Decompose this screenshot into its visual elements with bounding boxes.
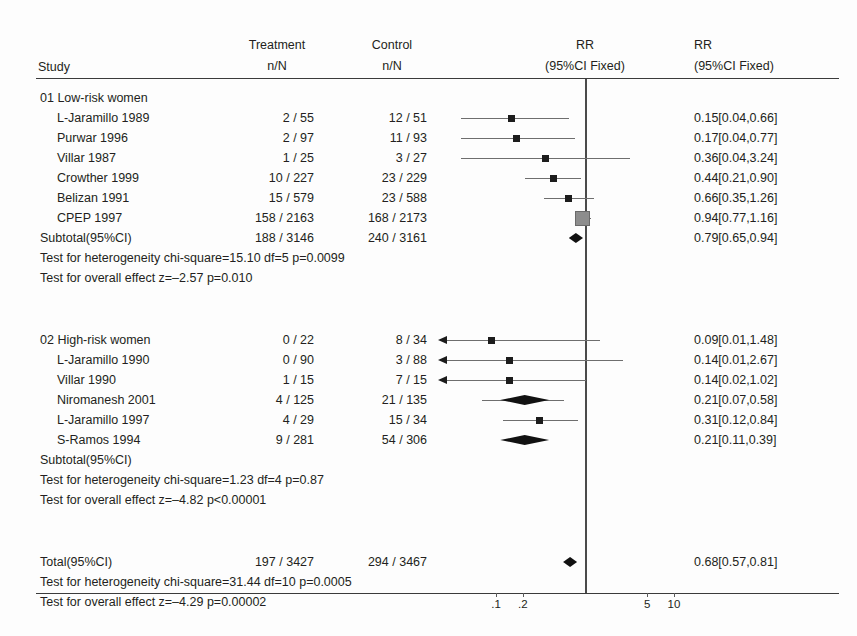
axis-tick-mark bbox=[647, 593, 648, 597]
axis-tick-label: .1 bbox=[491, 598, 501, 610]
effect-marker bbox=[550, 175, 557, 182]
graph-area bbox=[444, 79, 682, 593]
study-label: S-Ramos 1994 bbox=[57, 430, 140, 450]
table-row: Test for overall effect z=–4.82 p<0.0000… bbox=[0, 490, 857, 510]
study-control: 54 / 306 bbox=[335, 430, 427, 450]
column-header-rr-plot: RR bbox=[495, 38, 675, 53]
study-treatment: 158 / 2163 bbox=[222, 208, 314, 228]
total-control: 294 / 3467 bbox=[335, 552, 427, 572]
effect-marker bbox=[536, 417, 543, 424]
subtotal-rr: 0.79[0.65,0.94] bbox=[694, 228, 777, 248]
study-treatment: 4 / 29 bbox=[222, 410, 314, 430]
group-title-control: 8 / 34 bbox=[335, 330, 427, 350]
x-axis: .1.2510 bbox=[444, 593, 682, 623]
table-row: Test for heterogeneity chi-square=1.23 d… bbox=[0, 470, 857, 490]
ci-arrow-left-icon bbox=[438, 376, 447, 384]
total-overall-effect-test: Test for overall effect z=–4.29 p=0.0000… bbox=[40, 592, 266, 612]
ci-arrow-left-icon bbox=[438, 336, 447, 344]
study-treatment: 4 / 125 bbox=[222, 390, 314, 410]
subtotal-label: Subtotal(95%CI) bbox=[40, 450, 132, 470]
header-divider-rule bbox=[36, 78, 839, 79]
effect-marker bbox=[506, 357, 513, 364]
study-treatment: 15 / 579 bbox=[222, 188, 314, 208]
effect-marker bbox=[565, 195, 572, 202]
study-treatment: 0 / 90 bbox=[222, 350, 314, 370]
study-label: L-Jaramillo 1990 bbox=[57, 350, 149, 370]
total-treatment: 197 / 3427 bbox=[222, 552, 314, 572]
study-control: 11 / 93 bbox=[335, 128, 427, 148]
table-row: Test for overall effect z=–4.29 p=0.0000… bbox=[0, 592, 857, 612]
group-title-treatment: 0 / 22 bbox=[222, 330, 314, 350]
study-rr: 0.21[0.11,0.39] bbox=[694, 430, 776, 450]
table-row: Villar 19871 / 253 / 270.36[0.04,3.24] bbox=[0, 148, 857, 168]
axis-tick-label: .2 bbox=[518, 598, 528, 610]
table-row: Test for heterogeneity chi-square=31.44 … bbox=[0, 572, 857, 592]
study-control: 3 / 88 bbox=[335, 350, 427, 370]
study-label: Villar 1987 bbox=[57, 148, 116, 168]
study-rr: 0.66[0.35,1.26] bbox=[694, 188, 777, 208]
study-label: Niromanesh 2001 bbox=[57, 390, 156, 410]
study-treatment: 2 / 97 bbox=[222, 128, 314, 148]
study-control: 7 / 15 bbox=[335, 370, 427, 390]
forest-plot: Study Treatment n/N Control n/N RR (95%C… bbox=[0, 0, 857, 636]
group-title: 02 High-risk women bbox=[40, 330, 150, 350]
axis-tick-mark bbox=[523, 593, 524, 597]
table-row: L-Jaramillo 19974 / 2915 / 340.31[0.12,0… bbox=[0, 410, 857, 430]
column-header-study: Study bbox=[38, 60, 70, 75]
total-label: Total(95%CI) bbox=[40, 552, 112, 572]
subtotal-diamond bbox=[569, 233, 583, 243]
table-row: L-Jaramillo 19892 / 5512 / 510.15[0.04,0… bbox=[0, 108, 857, 128]
group-title-rr: 0.09[0.01,1.48] bbox=[694, 330, 777, 350]
effect-marker bbox=[575, 211, 590, 226]
total-heterogeneity-test: Test for heterogeneity chi-square=31.44 … bbox=[40, 572, 352, 592]
study-rr: 0.15[0.04,0.66] bbox=[694, 108, 777, 128]
table-row: Subtotal(95%CI) bbox=[0, 450, 857, 470]
axis-tick-label: 5 bbox=[644, 598, 650, 610]
study-control: 168 / 2173 bbox=[335, 208, 427, 228]
table-row: Total(95%CI)197 / 3427294 / 34670.68[0.5… bbox=[0, 552, 857, 572]
study-label: Purwar 1996 bbox=[57, 128, 128, 148]
table-row: CPEP 1997158 / 2163168 / 21730.94[0.77,1… bbox=[0, 208, 857, 228]
table-row: S-Ramos 19949 / 28154 / 3060.21[0.11,0.3… bbox=[0, 430, 857, 450]
table-row: Test for overall effect z=–2.57 p=0.010 bbox=[0, 268, 857, 288]
study-label: Belizan 1991 bbox=[57, 188, 129, 208]
subtotal-label: Subtotal(95%CI) bbox=[40, 228, 132, 248]
confidence-interval-line bbox=[446, 380, 586, 381]
column-header-rr-text: RR bbox=[694, 38, 712, 53]
group-title: 01 Low-risk women bbox=[40, 88, 148, 108]
study-treatment: 1 / 25 bbox=[222, 148, 314, 168]
column-header-control-sub: n/N bbox=[355, 59, 429, 74]
study-rr: 0.21[0.07,0.58] bbox=[694, 390, 777, 410]
table-row: 01 Low-risk women bbox=[0, 88, 857, 108]
study-label: Villar 1990 bbox=[57, 370, 116, 390]
table-row: Crowther 199910 / 22723 / 2290.44[0.21,0… bbox=[0, 168, 857, 188]
study-rr: 0.31[0.12,0.84] bbox=[694, 410, 777, 430]
table-row: Villar 19901 / 157 / 150.14[0.02,1.02] bbox=[0, 370, 857, 390]
study-label: L-Jaramillo 1997 bbox=[57, 410, 149, 430]
effect-marker bbox=[513, 135, 520, 142]
table-row: L-Jaramillo 19900 / 903 / 880.14[0.01,2.… bbox=[0, 350, 857, 370]
reference-line bbox=[585, 79, 587, 593]
ci-arrow-left-icon bbox=[438, 356, 447, 364]
table-row: Purwar 19962 / 9711 / 930.17[0.04,0.77] bbox=[0, 128, 857, 148]
confidence-interval-line bbox=[446, 340, 600, 341]
study-label: Crowther 1999 bbox=[57, 168, 139, 188]
total-rr: 0.68[0.57,0.81] bbox=[694, 552, 777, 572]
effect-marker bbox=[488, 337, 495, 344]
column-header-rr-plot-sub: (95%CI Fixed) bbox=[495, 59, 675, 74]
table-row: Test for heterogeneity chi-square=15.10 … bbox=[0, 248, 857, 268]
table-row: 02 High-risk women0 / 228 / 340.09[0.01,… bbox=[0, 330, 857, 350]
heterogeneity-test: Test for heterogeneity chi-square=15.10 … bbox=[40, 248, 345, 268]
table-row: Belizan 199115 / 57923 / 5880.66[0.35,1.… bbox=[0, 188, 857, 208]
study-label: CPEP 1997 bbox=[57, 208, 122, 228]
study-rr: 0.44[0.21,0.90] bbox=[694, 168, 777, 188]
study-label: L-Jaramillo 1989 bbox=[57, 108, 149, 128]
study-control: 12 / 51 bbox=[335, 108, 427, 128]
subtotal-diamond bbox=[500, 395, 549, 405]
effect-marker bbox=[508, 115, 515, 122]
study-rr: 0.14[0.01,2.67] bbox=[694, 350, 777, 370]
study-control: 15 / 34 bbox=[335, 410, 427, 430]
study-control: 21 / 135 bbox=[335, 390, 427, 410]
study-control: 3 / 27 bbox=[335, 148, 427, 168]
study-treatment: 1 / 15 bbox=[222, 370, 314, 390]
